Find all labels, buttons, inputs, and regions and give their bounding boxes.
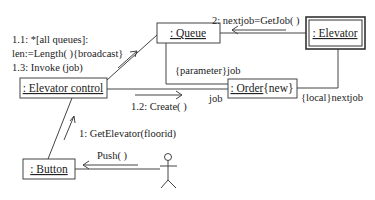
message-1: 1: GetElevator(floorid) [79,128,177,140]
message-1-3: 1.3: Invoke (job) [12,62,83,74]
arrow-push-icon [83,161,138,169]
link-label-job: job [208,93,222,104]
link-label-parameter-job: {parameter}job [175,65,240,76]
message-1-1-line2: len:=Length( ){broadcast} [12,48,123,60]
object-elevator-label: : Elevator [312,27,357,39]
message-2: 2: nextjob=GetJob( ) [212,15,300,27]
link-label-local-nextjob: {local}nextjob [301,92,363,103]
object-elevator-control[interactable]: : Elevator control [20,78,107,98]
actor-user-icon [160,154,177,189]
object-button-label: : Button [30,163,68,175]
object-button[interactable]: : Button [23,159,75,179]
object-order-text: : Order{new} [230,82,293,94]
object-elevator[interactable]: : Elevator [306,17,365,49]
object-queue[interactable]: : Queue [157,23,220,43]
link-elevator-order [297,49,338,88]
message-push: Push( ) [97,150,128,162]
object-order[interactable]: : Order{new} [228,79,297,98]
object-elevator-control-label: : Elevator control [23,82,103,94]
object-order-constraint: {new} [263,82,293,94]
message-1-1-line1: 1.1: *[all queues]: [12,34,88,45]
arrow-1-2-icon [135,91,182,99]
object-queue-label: : Queue [170,27,206,39]
message-1-2: 1.2: Create( ) [131,101,187,113]
link-queue-order [166,43,228,84]
collaboration-diagram: : Elevator control : Queue : Elevator : … [0,0,375,200]
object-order-label: : Order [230,82,263,94]
arrow-1-icon [64,116,75,140]
